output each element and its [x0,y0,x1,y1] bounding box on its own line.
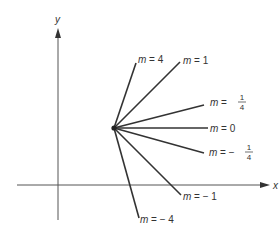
svg-text:4: 4 [247,153,252,162]
label-m-neg-4: m = − 4 [140,214,174,225]
label-m-0: m = 0 [210,123,236,134]
x-axis-arrow-icon [260,182,270,188]
svg-text:1: 1 [247,143,252,152]
line-slope-4 [114,63,136,128]
line-slope-1-4 [114,105,204,128]
center-point [111,125,116,130]
label-m-neg-1: m = − 1 [183,191,217,202]
x-axis-label: x [272,180,279,191]
line-slope-1 [114,62,180,128]
y-axis-arrow-icon [55,28,61,38]
label-m-neg-1-4: m = − 1 4 [209,143,253,162]
svg-text:m =: m = [210,97,227,108]
svg-text:1: 1 [240,93,245,102]
svg-text:4: 4 [240,103,245,112]
label-m-1: m = 1 [183,55,209,66]
label-m-1-4: m = 1 4 [210,93,246,112]
y-axis-label: y [54,14,61,25]
axes: x y [17,14,279,220]
label-m-4: m = 4 [138,54,164,65]
diagram-svg: x y m = 4 m = 1 m = [0,0,279,240]
slope-diagram: x y m = 4 m = 1 m = [0,0,279,240]
svg-text:m = −: m = − [209,147,235,158]
